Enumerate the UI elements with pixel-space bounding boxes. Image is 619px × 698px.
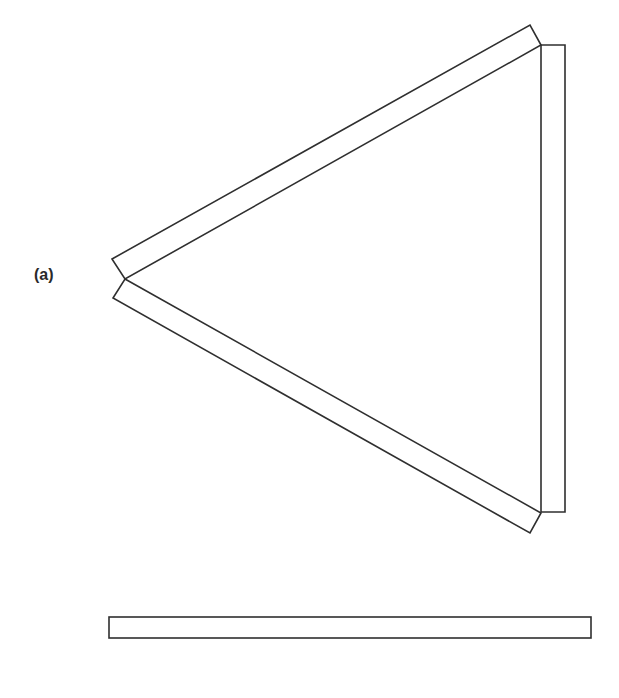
folded-triangle-figure bbox=[0, 0, 619, 698]
figure-label: (a) bbox=[34, 265, 54, 285]
upper-left-strip bbox=[112, 25, 541, 279]
right-vertical-strip bbox=[541, 45, 565, 512]
lower-left-strip bbox=[113, 279, 541, 533]
triangle-strips bbox=[112, 25, 565, 533]
bottom-bar bbox=[109, 617, 591, 638]
